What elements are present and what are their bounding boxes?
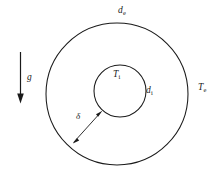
label-gap-width: δ [76, 112, 80, 121]
label-outer-temperature: Te [198, 83, 206, 93]
inner-temperature-symbol: T [113, 69, 118, 79]
label-inner-temperature: Ti [113, 70, 120, 80]
outer-temperature-subscript: e [204, 86, 207, 93]
label-outer-diameter: de [118, 6, 126, 16]
diagram-canvas [0, 0, 218, 174]
label-gravity: g [27, 73, 32, 83]
outer-circle [46, 23, 188, 165]
outer-diameter-subscript: e [123, 9, 126, 16]
gravity-arrow [17, 52, 24, 104]
figure-container: de Te Ti di δ g [0, 0, 218, 174]
outer-temperature-symbol: T [198, 82, 203, 92]
inner-diameter-subscript: i [151, 89, 153, 96]
gap-arrow-head-outer [73, 138, 79, 144]
label-inner-diameter: di [146, 86, 153, 96]
gravity-arrow-head [17, 94, 24, 104]
